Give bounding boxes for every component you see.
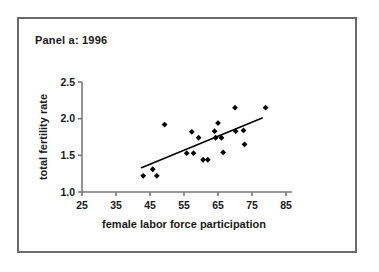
data-point-marker (212, 128, 218, 134)
data-point-marker (184, 150, 190, 156)
x-tick-label: 45 (144, 199, 156, 211)
y-tick-label: 2.0 (60, 112, 75, 124)
data-point-marker (162, 122, 168, 128)
x-tick-label: 35 (110, 199, 122, 211)
x-tick-label: 75 (246, 199, 258, 211)
data-point-marker (215, 120, 221, 126)
x-tick-label: 25 (76, 199, 88, 211)
scatter-plot: 1.01.52.02.525354555657585 female labor … (0, 0, 379, 272)
tick-labels: 1.01.52.02.525354555657585 (60, 76, 292, 211)
data-point-marker (220, 150, 226, 156)
data-point-marker (205, 157, 211, 163)
data-point-marker (150, 166, 156, 172)
data-point-marker (196, 135, 202, 141)
x-axis-title: female labor force participation (102, 218, 266, 230)
axes (78, 82, 292, 196)
data-point-marker (191, 150, 197, 156)
data-point-marker (241, 128, 247, 134)
y-axis-title: total fertility rate (37, 94, 49, 180)
data-point-marker (154, 173, 160, 179)
data-point-marker (140, 173, 146, 179)
y-tick-label: 1.0 (60, 186, 75, 198)
x-tick-label: 55 (178, 199, 190, 211)
data-point-marker (189, 129, 195, 135)
figure-panel-a-1996: Panel a: 1996 1.01.52.02.525354555657585… (0, 0, 379, 272)
data-point-marker (242, 141, 248, 147)
data-point-marker (263, 105, 269, 111)
y-tick-label: 1.5 (60, 149, 75, 161)
x-tick-label: 65 (212, 199, 224, 211)
x-tick-label: 85 (280, 199, 292, 211)
y-tick-label: 2.5 (60, 76, 75, 88)
data-point-marker (232, 105, 238, 111)
